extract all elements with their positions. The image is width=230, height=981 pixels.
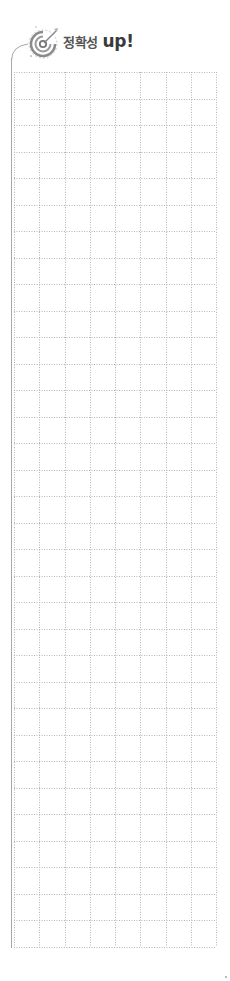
section-title: 정확성 up!: [63, 31, 134, 53]
page-mark: [225, 976, 227, 978]
margin-line: [11, 58, 12, 948]
title-suffix: up!: [103, 31, 134, 51]
grid-lines: [14, 72, 217, 948]
writing-grid: [14, 72, 216, 947]
target-icon: [27, 24, 63, 62]
section-header: 정확성 up!: [0, 0, 230, 72]
title-korean: 정확성: [63, 32, 98, 51]
